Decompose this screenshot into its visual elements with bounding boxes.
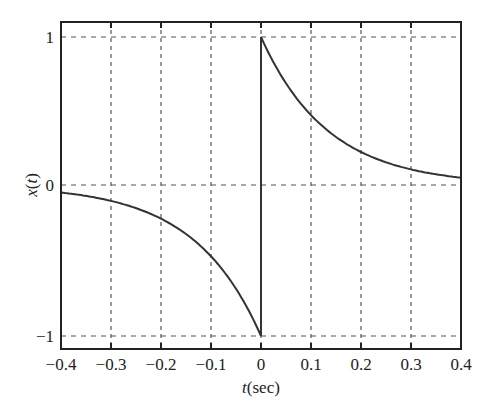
signal-curve-positive-time — [261, 37, 461, 178]
y-tick-label: 1 — [46, 28, 55, 47]
x-tick-label: −0.4 — [46, 355, 77, 374]
y-axis-label: x(t) — [22, 173, 41, 198]
x-tick-label: −0.1 — [196, 355, 227, 374]
y-tick-label: 0 — [46, 176, 55, 195]
x-tick-labels: −0.4−0.3−0.2−0.100.10.20.30.4 — [46, 355, 473, 374]
chart: −0.4−0.3−0.2−0.100.10.20.30.4 −101 t(sec… — [0, 0, 487, 413]
x-tick-label: 0.3 — [400, 355, 421, 374]
x-tick-label: −0.3 — [96, 355, 127, 374]
x-tick-label: 0 — [257, 355, 266, 374]
y-tick-label: −1 — [36, 327, 54, 346]
x-tick-label: 0.4 — [450, 355, 472, 374]
x-tick-label: −0.2 — [146, 355, 177, 374]
x-axis-label: t(sec) — [242, 378, 280, 397]
x-tick-label: 0.1 — [300, 355, 321, 374]
x-tick-label: 0.2 — [350, 355, 371, 374]
